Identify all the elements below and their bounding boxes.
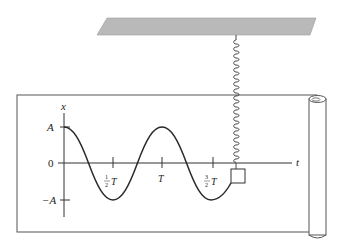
mass-block xyxy=(231,169,245,183)
paper-roll xyxy=(309,96,326,239)
label-zero: 0 xyxy=(48,157,54,169)
ceiling-support xyxy=(97,18,316,35)
svg-text:3: 3 xyxy=(205,174,208,180)
y-axis-label: x xyxy=(60,100,66,112)
svg-text:2: 2 xyxy=(105,182,108,188)
label-negA: −A xyxy=(42,194,56,206)
svg-text:1: 1 xyxy=(105,174,108,180)
label-half-T: 1 2 T xyxy=(104,174,118,188)
svg-text:2: 2 xyxy=(205,182,208,188)
label-A: A xyxy=(46,121,54,133)
shm-diagram: x t A 0 −A 1 2 T T 3 2 T xyxy=(0,0,337,247)
label-three-halves-T: 3 2 T xyxy=(204,174,218,188)
